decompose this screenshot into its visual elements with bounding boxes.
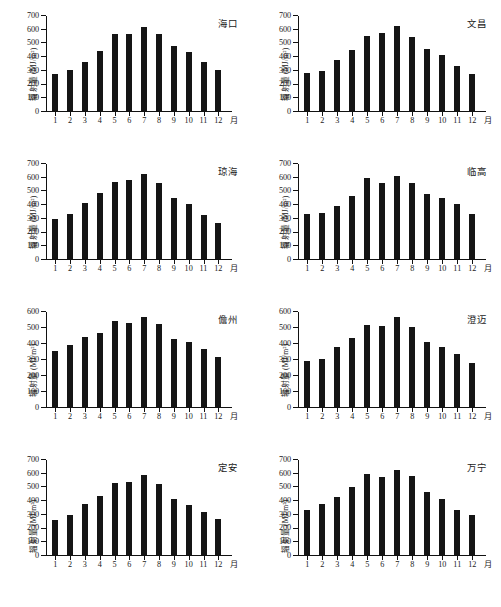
bar — [156, 324, 162, 407]
bar — [97, 496, 103, 555]
bar — [334, 60, 340, 111]
x-tick-label: 9 — [425, 265, 429, 273]
y-tick-label: 400 — [279, 201, 291, 209]
bar — [82, 337, 88, 407]
y-tick-label: 100 — [279, 388, 291, 396]
x-tick-label: 4 — [350, 265, 354, 273]
chart-panel: 辐射量 (MJ/m²)万宁010020030040050060070012345… — [250, 444, 501, 607]
y-tick-label: 400 — [27, 201, 39, 209]
x-tick-label: 2 — [320, 413, 324, 421]
y-tick-label: 400 — [27, 340, 39, 348]
x-axis-unit-label: 月 — [484, 413, 492, 421]
y-tick-label: 400 — [27, 53, 39, 61]
x-tick-label: 9 — [172, 117, 176, 125]
y-tick-label: 200 — [279, 524, 291, 532]
x-tick-label: 11 — [200, 561, 208, 569]
bar — [126, 482, 132, 555]
y-tick-label: 600 — [279, 470, 291, 478]
y-tick-label: 300 — [27, 215, 39, 223]
bar — [439, 198, 445, 259]
bar — [52, 351, 58, 407]
x-tick-label: 5 — [365, 265, 369, 273]
y-tick-label: 400 — [279, 497, 291, 505]
y-tick-label: 300 — [27, 67, 39, 75]
bar — [424, 342, 430, 407]
bar — [201, 215, 207, 259]
x-tick-label: 4 — [350, 413, 354, 421]
x-axis-unit-label: 月 — [484, 117, 492, 125]
x-tick-label: 3 — [335, 561, 339, 569]
x-tick-label: 12 — [468, 265, 476, 273]
x-tick-label: 2 — [68, 117, 72, 125]
plot-area: 0100200300400500600700123456789101112月 — [298, 16, 478, 112]
bar — [364, 36, 370, 111]
y-tick-label: 500 — [27, 187, 39, 195]
x-tick-label: 9 — [172, 413, 176, 421]
x-tick-label: 1 — [305, 413, 309, 421]
bar — [126, 34, 132, 111]
bar — [424, 194, 430, 259]
bar — [67, 515, 73, 555]
plot-area: 0100200300400500600700123456789101112月 — [46, 164, 224, 260]
y-tick-label: 100 — [27, 388, 39, 396]
x-axis-unit-label: 月 — [230, 117, 238, 125]
chart-grid: 辐射量 (MJ/m²)海口010020030040050060070012345… — [0, 0, 501, 607]
x-tick-label: 7 — [142, 561, 146, 569]
bar — [409, 327, 415, 407]
chart-panel: 辐射量 (MJ/m²)儋州010020030040050060012345678… — [0, 296, 250, 444]
y-tick-label: 200 — [27, 524, 39, 532]
y-tick-label: 500 — [27, 324, 39, 332]
bar — [171, 46, 177, 111]
x-tick-label: 7 — [142, 117, 146, 125]
x-tick-label: 10 — [185, 413, 193, 421]
x-tick-label: 7 — [395, 413, 399, 421]
x-tick-label: 8 — [410, 561, 414, 569]
y-tick-label: 400 — [279, 53, 291, 61]
bar — [334, 497, 340, 555]
x-tick-label: 1 — [305, 117, 309, 125]
x-tick-label: 11 — [200, 265, 208, 273]
y-tick-label: 0 — [287, 404, 291, 412]
y-tick-label: 300 — [279, 67, 291, 75]
bar — [215, 519, 221, 555]
y-tick — [293, 555, 298, 556]
bar — [334, 347, 340, 407]
bar — [304, 214, 310, 259]
bar — [319, 504, 325, 555]
bar — [364, 474, 370, 555]
y-tick-label: 200 — [279, 372, 291, 380]
bar — [141, 27, 147, 111]
bar — [469, 214, 475, 259]
plot-area: 0100200300400500600700123456789101112月 — [46, 460, 224, 556]
x-tick-label: 11 — [200, 413, 208, 421]
bar — [319, 359, 325, 407]
x-tick-label: 7 — [395, 117, 399, 125]
x-axis-unit-label: 月 — [230, 265, 238, 273]
bar-series — [298, 312, 478, 407]
x-tick-label: 3 — [83, 561, 87, 569]
bar — [141, 317, 147, 407]
plot-area: 0100200300400500600700123456789101112月 — [298, 460, 478, 556]
bar — [112, 321, 118, 407]
y-tick — [41, 555, 46, 556]
x-tick-label: 1 — [53, 561, 57, 569]
bar — [201, 62, 207, 111]
bar — [112, 182, 118, 259]
x-tick-label: 10 — [438, 413, 446, 421]
x-tick-label: 8 — [410, 265, 414, 273]
x-tick-label: 10 — [185, 265, 193, 273]
bar — [379, 33, 385, 111]
x-tick-label: 5 — [365, 561, 369, 569]
x-tick-label: 8 — [157, 561, 161, 569]
x-tick-label: 9 — [425, 413, 429, 421]
bar — [454, 354, 460, 407]
x-tick-label: 3 — [83, 413, 87, 421]
bar — [141, 174, 147, 259]
y-tick-label: 500 — [27, 483, 39, 491]
x-tick-label: 9 — [172, 561, 176, 569]
y-tick-label: 700 — [279, 456, 291, 464]
bar — [82, 203, 88, 259]
x-tick-label: 1 — [305, 265, 309, 273]
x-tick-label: 4 — [98, 117, 102, 125]
bar — [126, 323, 132, 407]
